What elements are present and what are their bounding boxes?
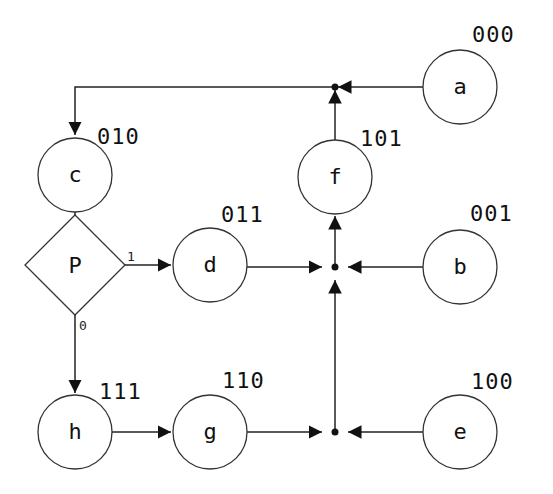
junction-bottom (332, 429, 339, 436)
node-b: b 001 (423, 201, 513, 304)
node-f-label: f (328, 164, 341, 189)
junction-top (332, 84, 339, 91)
node-d: d 011 (173, 202, 264, 302)
node-a-code: 000 (472, 22, 515, 47)
branch-label-false: 0 (79, 318, 87, 333)
node-f-code: 101 (360, 126, 403, 151)
node-g-code: 110 (222, 368, 265, 393)
junction-mid (332, 264, 339, 271)
node-d-label: d (203, 252, 216, 277)
node-f: f 101 (298, 126, 403, 214)
node-h: h 111 (38, 379, 142, 469)
node-b-code: 001 (470, 201, 513, 226)
decision-p: P 1 0 (25, 215, 135, 333)
node-e-code: 100 (471, 369, 514, 394)
node-g-label: g (203, 419, 216, 444)
node-h-code: 111 (99, 379, 142, 404)
node-g: g 110 (173, 368, 265, 469)
branch-label-true: 1 (127, 249, 135, 264)
decision-p-label: P (68, 253, 81, 278)
node-d-code: 011 (221, 202, 264, 227)
node-c-label: c (68, 162, 81, 187)
state-diagram: a 000 b 001 c 010 d 011 e 100 f 101 g 11… (0, 0, 553, 494)
node-e: e 100 (423, 369, 514, 469)
node-c-code: 010 (97, 124, 140, 149)
node-e-label: e (453, 419, 466, 444)
node-a-label: a (453, 74, 466, 99)
node-b-label: b (453, 254, 466, 279)
node-h-label: h (68, 419, 81, 444)
node-c: c 010 (38, 124, 140, 212)
node-a: a 000 (423, 22, 515, 124)
